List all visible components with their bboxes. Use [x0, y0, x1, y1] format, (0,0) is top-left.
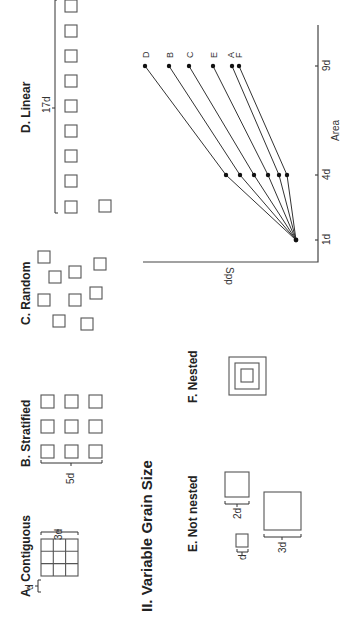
panel-d-label: D. Linear: [19, 81, 33, 133]
nested-square-inner: [241, 369, 253, 382]
svg-text:d: d: [24, 584, 35, 590]
panel-c-random: C. Random: [19, 200, 111, 330]
dimension-bracket-5d: 5d: [41, 460, 102, 484]
y-axis-label: Spp: [224, 267, 235, 285]
svg-text:B: B: [165, 52, 175, 58]
stratified-grid: [41, 395, 102, 458]
panel-f-nested: F. Nested: [186, 350, 266, 403]
svg-text:D: D: [141, 51, 151, 58]
svg-text:3d: 3d: [53, 529, 64, 540]
panel-b-label: B. Stratified: [19, 400, 33, 467]
svg-text:1d: 1d: [321, 234, 332, 245]
series-labels: D B C E A F: [141, 51, 244, 58]
dimension-bracket-3d: 3d: [41, 529, 78, 540]
panel-a-contiguous: A. Contiguous 3d d: [19, 515, 78, 597]
svg-text:d: d: [237, 554, 248, 560]
dimension-bracket-d: [237, 549, 248, 555]
species-area-chart: 1d 4d 9d Area Spp: [141, 25, 341, 285]
panel-d-linear: D. Linear 17d: [19, 0, 77, 213]
figure-canvas: A. Contiguous 3d d B. Stratified: [0, 0, 346, 621]
random-box-partial: [99, 200, 111, 212]
svg-text:5d: 5d: [65, 473, 76, 484]
section-title: II. Variable Grain Size: [138, 460, 155, 612]
dimension-bracket-17d: 17d: [41, 0, 58, 213]
svg-text:4d: 4d: [321, 169, 332, 180]
svg-text:2d: 2d: [232, 508, 243, 519]
svg-text:F: F: [234, 52, 244, 58]
panel-f-label: F. Nested: [186, 350, 200, 403]
svg-text:17d: 17d: [41, 96, 52, 113]
nested-square-middle: [235, 363, 259, 389]
series-C: [189, 66, 296, 240]
square-3d: [264, 492, 301, 530]
linear-boxes: [65, 0, 77, 213]
chart-axes: [143, 25, 318, 262]
svg-text:E: E: [209, 52, 219, 58]
panel-c-label: C. Random: [19, 262, 33, 325]
x-axis-label: Area: [330, 119, 341, 141]
panel-e-not-nested: E. Not nested d 2d 3d: [186, 472, 301, 560]
random-boxes: [38, 251, 106, 330]
dimension-bracket-2d: [225, 501, 249, 507]
contiguous-grid: [41, 539, 78, 576]
panel-b-stratified: B. Stratified 5d: [19, 395, 102, 484]
square-d: [236, 534, 248, 547]
svg-text:3d: 3d: [277, 542, 288, 553]
svg-text:C: C: [185, 51, 195, 58]
dimension-bracket-3d: [264, 534, 301, 540]
square-2d: [225, 472, 249, 497]
svg-text:9d: 9d: [321, 60, 332, 71]
panel-e-label: E. Not nested: [186, 475, 200, 552]
series-lines: [145, 66, 296, 240]
series-A: [232, 66, 296, 240]
